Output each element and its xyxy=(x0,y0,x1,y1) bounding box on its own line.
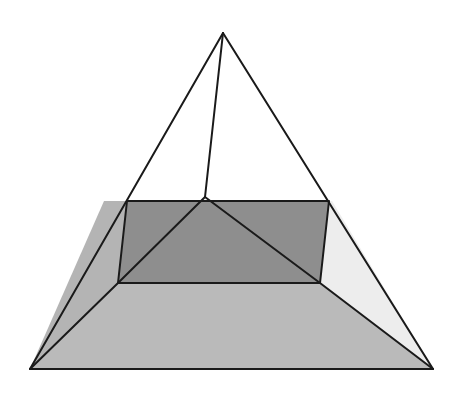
pyramid-diagram xyxy=(0,0,464,394)
edge-apex-inner xyxy=(205,33,223,197)
rectangular-cross-section xyxy=(118,201,329,283)
